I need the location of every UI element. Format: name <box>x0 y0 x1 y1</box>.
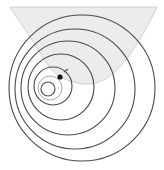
wavefront-circle <box>41 82 55 96</box>
wavefront-diagram <box>0 0 164 170</box>
diagram-canvas <box>0 0 164 170</box>
shaded-cone-region <box>10 7 157 84</box>
source-point <box>57 74 62 79</box>
